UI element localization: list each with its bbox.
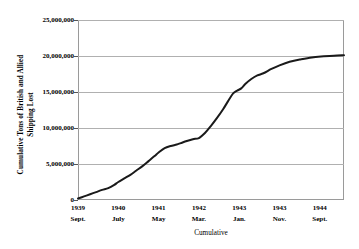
y-tick-label: 5,000,000 [14, 160, 74, 168]
x-tick-label: 1940July [111, 203, 125, 225]
x-tick-label-month: Sept. [71, 214, 86, 225]
x-tick-label-year: 1941 [152, 203, 166, 214]
x-tick-label: 1944Sept. [312, 203, 327, 225]
y-tick-label: 25,000,000 [14, 16, 74, 24]
x-tick-label-month: Sept. [312, 214, 327, 225]
x-tick-label-year: 1943 [232, 203, 246, 214]
x-tick-label: 1942Mar. [192, 203, 206, 225]
y-tick-label: 10,000,000 [14, 124, 74, 132]
y-tick-label: 20,000,000 [14, 52, 74, 60]
x-tick-label-year: 1943 [273, 203, 287, 214]
series-line [78, 55, 344, 198]
x-tick-label-year: 1942 [192, 203, 206, 214]
y-axis-tick-labels: 05,000,00010,000,00015,000,00020,000,000… [14, 0, 74, 249]
chart-figure: Cumulative Tons of British and Allied Sh… [0, 0, 359, 249]
series-line-chart [78, 20, 344, 200]
x-tick-label: 1939Sept. [71, 203, 86, 225]
x-tick-label-month: Nov. [273, 214, 287, 225]
y-tick-mark [74, 200, 78, 201]
y-tick-label: 15,000,000 [14, 88, 74, 96]
y-tick-label: 0 [14, 196, 74, 204]
x-tick-label: 1943Nov. [273, 203, 287, 225]
x-axis-title: Cumulative [78, 229, 344, 237]
x-tick-label-month: July [111, 214, 125, 225]
plot-area [78, 20, 344, 200]
x-tick-label-month: Mar. [192, 214, 206, 225]
x-tick-label-month: May [152, 214, 166, 225]
x-tick-label-year: 1940 [111, 203, 125, 214]
x-tick-label-month: Jan. [232, 214, 246, 225]
x-tick-label: 1941May [152, 203, 166, 225]
x-tick-label: 1943Jan. [232, 203, 246, 225]
x-tick-label-year: 1944 [312, 203, 327, 214]
x-tick-label-year: 1939 [71, 203, 86, 214]
